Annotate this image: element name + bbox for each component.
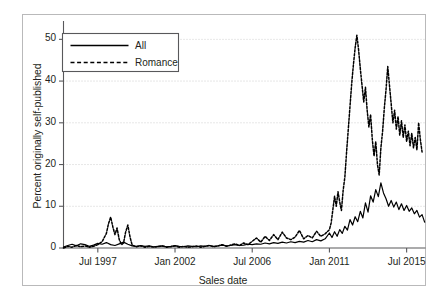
legend-label-romance: Romance [135, 57, 178, 68]
x-tick-label: Jan 2011 [309, 256, 349, 267]
legend-label-all: All [135, 40, 146, 51]
x-axis-label: Sales date [0, 274, 446, 286]
x-tick-label: Jan 2002 [154, 256, 195, 267]
x-tick-label: Jul 1997 [79, 256, 117, 267]
x-tick-label: Jul 2015 [388, 256, 426, 267]
chart-figure: 01020304050 Jul 1997Jan 2002Jul 2006Jan … [0, 0, 446, 301]
plot-canvas [0, 0, 446, 301]
x-tick-label: Jul 2006 [233, 256, 271, 267]
series-line-all [64, 183, 425, 247]
y-tick-label: 0 [34, 241, 56, 252]
y-axis-label: Percent originally self-published [31, 36, 43, 236]
